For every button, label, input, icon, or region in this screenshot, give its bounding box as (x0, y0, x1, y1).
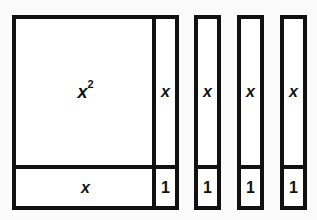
unit-tile-2: 1 (194, 165, 221, 210)
x-squared-exponent: 2 (87, 78, 93, 90)
unit-tile-3: 1 (237, 165, 264, 210)
x-squared-label: x2 (77, 83, 93, 101)
x-tile-vertical-3-label: x (246, 84, 255, 100)
unit-tile-4: 1 (280, 165, 307, 210)
x-tile-horizontal-label: x (81, 180, 90, 196)
x-tile-vertical-3: x (237, 15, 264, 169)
x-tile-vertical-4-label: x (289, 84, 298, 100)
x-tile-vertical-4: x (280, 15, 307, 169)
x-tile-vertical-1: x (152, 15, 179, 169)
unit-tile-3-label: 1 (246, 180, 255, 196)
x-tile-vertical-2: x (194, 15, 221, 169)
x-tile-vertical-1-label: x (161, 84, 170, 100)
x-tile-vertical-2-label: x (203, 84, 212, 100)
x-squared-tile: x2 (12, 15, 159, 169)
algebra-tiles-diagram: x2 x x x x x 1 1 1 1 (0, 0, 317, 220)
x-tile-horizontal: x (12, 165, 159, 210)
unit-tile-2-label: 1 (203, 180, 212, 196)
unit-tile-1: 1 (152, 165, 179, 210)
unit-tile-1-label: 1 (161, 180, 170, 196)
unit-tile-4-label: 1 (289, 180, 298, 196)
x-squared-base: x (77, 82, 87, 102)
